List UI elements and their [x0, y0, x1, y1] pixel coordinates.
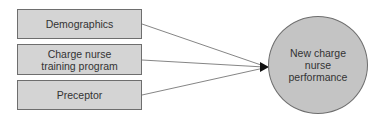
- input-label: Demographics: [46, 18, 114, 30]
- outcome-circle: New charge nurse performance: [268, 16, 368, 114]
- input-label: Preceptor: [57, 89, 103, 101]
- input-label: Charge nurse training program: [30, 48, 130, 72]
- outcome-label: New charge nurse performance: [283, 47, 353, 83]
- input-box-training-program: Charge nurse training program: [17, 44, 142, 75]
- input-box-demographics: Demographics: [17, 9, 142, 39]
- input-box-preceptor: Preceptor: [17, 80, 142, 110]
